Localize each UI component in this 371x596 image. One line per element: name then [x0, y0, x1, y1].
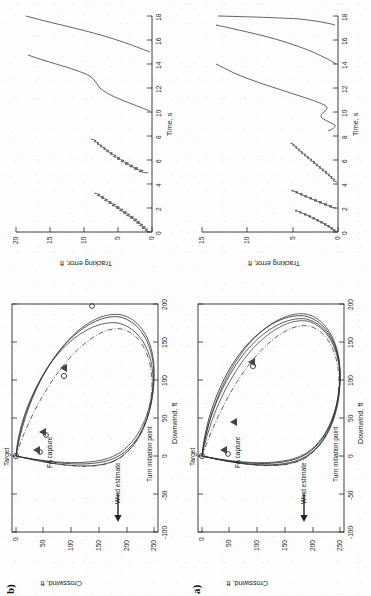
b-err-x-18: 18 — [155, 14, 162, 21]
b-err-x-4: 4 — [155, 183, 162, 187]
panel-a-trajectory-svg — [188, 290, 370, 572]
panel-b-trajectory-svg — [2, 290, 184, 572]
a-err-x-10: 10 — [341, 110, 348, 117]
a-x-tick-0: 0 — [347, 454, 354, 458]
a-traj-xlabel: Downwind, ft — [356, 403, 365, 444]
a-err-y-0: 0 — [334, 236, 341, 240]
a-y-tick-50: 50 — [225, 540, 232, 547]
panel-a-error-plot: 0 2 4 6 8 10 12 14 16 18 Time, s 0 5 10 … — [188, 4, 370, 266]
panel-b-error-plot: 0 2 4 6 8 10 12 14 16 18 Time, s 0 5 10 … — [2, 4, 184, 266]
b-err-y-0: 0 — [148, 236, 155, 240]
b-err-x-8: 8 — [155, 135, 162, 139]
a-err-x-14: 14 — [341, 62, 348, 69]
a-err-x-0: 0 — [341, 231, 348, 235]
a-x-tick--100: -100 — [347, 526, 354, 539]
b-err-x-6: 6 — [155, 159, 162, 163]
a-err-x-8: 8 — [341, 135, 348, 139]
a-x-tick-200: 200 — [347, 299, 354, 310]
panel-a-trajectory-plot: -100 -50 0 50 100 150 200 Downwind, ft 0… — [188, 290, 370, 572]
figure-page: b) — [0, 0, 371, 596]
a-y-tick-150: 150 — [281, 540, 288, 551]
a-annot-target: Target — [189, 448, 196, 466]
b-y-tick-150: 150 — [95, 540, 102, 551]
a-err-x-2: 2 — [341, 207, 348, 211]
a-err-y-5: 5 — [289, 236, 296, 240]
a-err-y-10: 10 — [243, 237, 250, 244]
a-err-ylabel: Tracking error, ft — [248, 259, 300, 268]
a-x-tick-50: 50 — [347, 415, 354, 422]
b-y-tick-0: 0 — [12, 537, 19, 541]
a-err-x-12: 12 — [341, 86, 348, 93]
b-err-y-10: 10 — [80, 237, 87, 244]
a-x-tick--50: -50 — [347, 490, 354, 500]
a-err-x-16: 16 — [341, 38, 348, 45]
b-err-x-10: 10 — [155, 110, 162, 117]
b-err-ylabel: Tracking error, ft — [60, 259, 112, 268]
b-y-tick-200: 200 — [123, 540, 130, 551]
b-x-tick-150: 150 — [161, 337, 168, 348]
a-err-x-18: 18 — [341, 14, 348, 21]
panel-b-trajectory-plot: -100 -50 0 50 100 150 200 Downwind, ft 0… — [2, 290, 184, 572]
a-x-tick-150: 150 — [347, 337, 354, 348]
b-err-x-12: 12 — [155, 86, 162, 93]
a-y-tick-200: 200 — [309, 540, 316, 551]
a-err-y-15: 15 — [198, 237, 205, 244]
b-err-y-5: 5 — [114, 236, 121, 240]
b-y-tick-50: 50 — [39, 540, 46, 547]
a-err-x-4: 4 — [341, 183, 348, 187]
a-y-tick-250: 250 — [336, 540, 343, 551]
b-x-tick-100: 100 — [161, 375, 168, 386]
b-y-tick-250: 250 — [150, 540, 157, 551]
a-y-tick-0: 0 — [198, 537, 205, 541]
b-x-tick--50: -50 — [161, 490, 168, 500]
b-err-x-16: 16 — [155, 38, 162, 45]
b-annot-turn-initiation: Turn initiation point — [146, 427, 153, 482]
b-err-x-14: 14 — [155, 62, 162, 69]
b-x-tick-200: 200 — [161, 299, 168, 310]
a-traj-ylabel: Crosswind, ft — [226, 579, 268, 588]
panel-b-caption: b) — [4, 584, 16, 594]
panel-a-caption: a) — [190, 585, 202, 594]
a-annot-turn-initiation: Turn initiation point — [332, 427, 339, 482]
a-err-xlabel: Time, s — [351, 113, 360, 136]
b-annot-fa-capture: FA capture — [46, 436, 53, 468]
b-traj-xlabel: Downwind, ft — [170, 403, 179, 444]
b-err-y-15: 15 — [46, 237, 53, 244]
a-x-tick-100: 100 — [347, 375, 354, 386]
b-annot-target: Target — [3, 448, 10, 466]
b-err-x-0: 0 — [155, 231, 162, 235]
b-err-x-2: 2 — [155, 207, 162, 211]
trajectory-markers-b — [13, 304, 94, 459]
b-err-xlabel: Time, s — [165, 113, 174, 136]
b-x-tick--100: -100 — [161, 526, 168, 539]
panel-a-group: a) — [186, 0, 371, 596]
wind-estimate-arrow-icon-a — [298, 492, 310, 522]
b-x-tick-0: 0 — [161, 454, 168, 458]
wind-estimate-arrow-icon-b — [112, 492, 124, 522]
b-x-tick-50: 50 — [161, 415, 168, 422]
b-y-tick-100: 100 — [67, 540, 74, 551]
b-traj-ylabel: Crosswind, ft — [40, 579, 82, 588]
a-y-tick-100: 100 — [253, 540, 260, 551]
a-err-x-6: 6 — [341, 159, 348, 163]
panel-b-group: b) — [0, 0, 186, 596]
b-err-y-20: 20 — [12, 237, 19, 244]
a-annot-fa-capture: FA capture — [234, 436, 241, 468]
